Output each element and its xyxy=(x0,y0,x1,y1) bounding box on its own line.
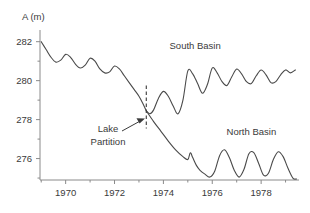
x-tick-label: 1972 xyxy=(104,187,125,198)
x-tick-label: 1978 xyxy=(251,187,272,198)
data-series-group xyxy=(41,42,296,179)
lake-level-chart: 276278280282 19701972197419761978 A (m) … xyxy=(0,0,310,213)
y-tick-label: 282 xyxy=(16,36,32,47)
y-axis-title: A (m) xyxy=(22,11,45,22)
axes: 276278280282 19701972197419761978 xyxy=(16,30,299,198)
x-tick-label: 1970 xyxy=(55,187,76,198)
x-tick-label: 1976 xyxy=(202,187,223,198)
y-tick-label: 280 xyxy=(16,75,32,86)
x-axis-tick-labels: 19701972197419761978 xyxy=(55,187,272,198)
y-tick-label: 278 xyxy=(16,114,32,125)
x-tick-label: 1974 xyxy=(153,187,174,198)
series-line-south-basin xyxy=(146,68,295,114)
series-line-whole-lake xyxy=(41,42,146,111)
south-basin-label: South Basin xyxy=(170,40,221,51)
chart-container: 276278280282 19701972197419761978 A (m) … xyxy=(0,0,310,213)
y-tick-label: 276 xyxy=(16,153,32,164)
x-axis-ticks xyxy=(41,180,285,184)
lake-partition-label-line1: Lake xyxy=(98,123,119,134)
series-line-north-basin xyxy=(146,111,296,179)
north-basin-label: North Basin xyxy=(227,126,277,137)
lake-partition-label-line2: Partition xyxy=(91,136,126,147)
lake-partition-annotation: Lake Partition xyxy=(91,118,145,147)
y-axis-tick-labels: 276278280282 xyxy=(16,36,32,164)
y-axis-ticks xyxy=(36,42,40,178)
